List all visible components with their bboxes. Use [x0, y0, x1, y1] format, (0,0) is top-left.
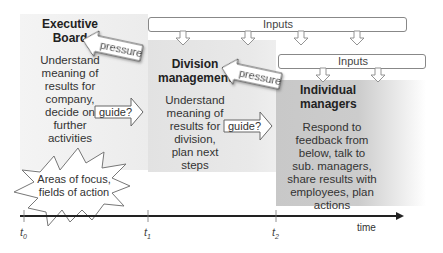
svg-text:fields of action: fields of action	[39, 186, 109, 198]
tick-label-t2: t2	[272, 226, 279, 240]
guide-arrow-2: guide?	[224, 112, 272, 140]
starburst-callout: Areas of focus, fields of action	[14, 148, 130, 226]
pressure-arrow-2: pressure	[219, 56, 284, 94]
guide-arrow-1: guide?	[95, 98, 143, 126]
svg-text:Areas of focus,: Areas of focus,	[37, 173, 110, 185]
diagram-graphics: pressure pressure guide? guide? Areas of…	[0, 0, 443, 253]
svg-text:guide?: guide?	[99, 106, 132, 118]
tick-label-t0: t0	[20, 226, 27, 240]
time-axis-label: time	[357, 222, 376, 233]
svg-text:guide?: guide?	[228, 120, 261, 132]
tick-label-t1: t1	[144, 226, 151, 240]
pressure-arrow-1: pressure	[80, 28, 145, 66]
